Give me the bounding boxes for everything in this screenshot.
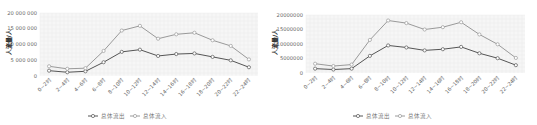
data-point: [102, 49, 105, 52]
data-point: [175, 52, 178, 55]
x-tick-label: 8~10时: [372, 74, 391, 93]
data-point: [496, 57, 499, 60]
x-tick-label: 16~18时: [443, 74, 464, 95]
legend-item-outflow[interactable]: 总体流出: [88, 112, 125, 120]
data-point: [387, 44, 390, 47]
chart-left: 05 000 00010 000 00015 000 00020 000 000…: [0, 0, 268, 125]
x-tick-label: 20~22时: [213, 76, 234, 97]
data-point: [423, 49, 426, 52]
x-tick-label: 12~14时: [406, 74, 427, 95]
x-tick-label: 0~2时: [302, 74, 318, 90]
data-point: [460, 21, 463, 24]
data-point: [314, 62, 317, 65]
data-point: [514, 64, 517, 67]
data-point: [156, 54, 159, 57]
chart-right: 05000000100000001500000020000000人流量/人0~2…: [268, 0, 536, 125]
data-point: [138, 48, 141, 51]
legend-label: 总体流出: [366, 112, 390, 120]
x-tick-label: 10~12时: [388, 74, 409, 95]
data-point: [514, 56, 517, 59]
data-point: [460, 45, 463, 48]
x-tick-label: 20~22时: [479, 74, 500, 95]
data-point: [478, 33, 481, 36]
plot-area: [306, 15, 525, 73]
y-tick-label: 0: [34, 73, 37, 79]
data-point: [441, 48, 444, 51]
line-chart-svg: 05000000100000001500000020000000人流量/人0~2…: [268, 0, 536, 125]
legend-marker-icon: [356, 114, 359, 117]
x-tick-label: 2~4时: [54, 76, 70, 92]
data-point: [332, 64, 335, 67]
data-point: [350, 63, 353, 66]
data-point: [496, 43, 499, 46]
x-tick-label: 2~4时: [320, 74, 336, 90]
x-tick-label: 18~20时: [461, 74, 482, 95]
x-tick-label: 22~24时: [498, 74, 519, 95]
data-point: [247, 58, 250, 61]
x-tick-label: 18~20时: [194, 76, 215, 97]
data-point: [211, 55, 214, 58]
data-point: [211, 39, 214, 42]
data-point: [102, 61, 105, 64]
data-point: [66, 67, 69, 70]
x-tick-label: 8~10时: [106, 76, 125, 95]
y-tick-label: 5 000 000: [11, 57, 37, 63]
data-point: [66, 71, 69, 74]
x-tick-label: 6~8时: [90, 76, 106, 92]
data-point: [138, 24, 141, 27]
data-point: [314, 67, 317, 70]
y-tick-label: 20000000: [277, 12, 303, 18]
data-point: [120, 29, 123, 32]
legend-item-inflow[interactable]: 总体流入: [395, 112, 432, 120]
data-point: [193, 31, 196, 34]
x-tick-label: 4~6时: [338, 74, 354, 90]
data-point: [441, 26, 444, 29]
x-tick-label: 14~16时: [158, 76, 179, 97]
data-point: [229, 44, 232, 47]
data-point: [84, 67, 87, 70]
legend-item-outflow[interactable]: 总体流出: [353, 112, 390, 120]
y-tick-label: 5000000: [280, 55, 303, 61]
y-tick-label: 10000000: [277, 41, 303, 47]
x-tick-label: 12~14时: [140, 76, 161, 97]
data-point: [368, 54, 371, 57]
data-point: [175, 33, 178, 36]
legend-marker-icon: [133, 114, 136, 117]
data-point: [368, 38, 371, 41]
legend-label: 总体流入: [143, 112, 167, 120]
data-point: [120, 50, 123, 53]
x-tick-label: 16~18时: [176, 76, 197, 97]
y-axis-label: 人流量/人: [271, 28, 279, 55]
data-point: [405, 46, 408, 49]
x-tick-label: 10~12时: [122, 76, 143, 97]
data-point: [47, 65, 50, 68]
data-point: [387, 19, 390, 22]
data-point: [423, 28, 426, 31]
data-point: [247, 66, 250, 69]
data-point: [350, 67, 353, 70]
data-point: [156, 37, 159, 40]
legend-label: 总体流出: [101, 112, 125, 120]
line-chart-svg: 05 000 00010 000 00015 000 00020 000 000…: [0, 0, 268, 125]
legend-label: 总体流入: [408, 112, 432, 120]
data-point: [84, 70, 87, 73]
x-tick-label: 6~8时: [356, 74, 372, 90]
y-tick-label: 15000000: [277, 26, 303, 32]
legend-marker-icon: [91, 114, 94, 117]
data-point: [193, 52, 196, 55]
data-point: [332, 68, 335, 71]
y-tick-label: 0: [300, 70, 303, 76]
data-point: [405, 22, 408, 25]
data-point: [229, 59, 232, 62]
data-point: [478, 52, 481, 55]
legend-item-inflow[interactable]: 总体流入: [130, 112, 167, 120]
legend-marker-icon: [398, 114, 401, 117]
data-point: [47, 69, 50, 72]
x-tick-label: 0~2时: [36, 76, 52, 92]
y-tick-label: 20 000 000: [7, 10, 37, 16]
x-tick-label: 4~6时: [72, 76, 88, 92]
x-tick-label: 14~16时: [425, 74, 446, 95]
y-axis-label: 人流量/人: [5, 28, 13, 55]
x-tick-label: 22~24时: [231, 76, 252, 97]
